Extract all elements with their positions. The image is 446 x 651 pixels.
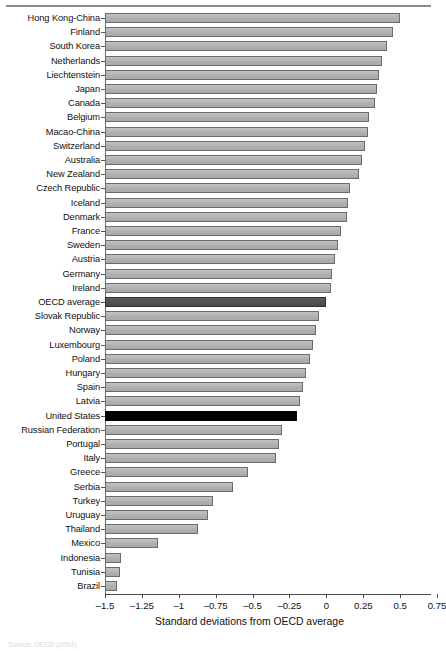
category-label: Canada	[0, 98, 100, 108]
category-label: Brazil	[0, 581, 100, 591]
bar	[105, 56, 382, 66]
bar-row	[105, 112, 437, 122]
bar-row	[105, 98, 437, 108]
x-tick	[179, 594, 180, 598]
bar	[105, 311, 319, 321]
bar-row	[105, 325, 437, 335]
x-tick-label: –1.25	[130, 600, 154, 612]
category-label: Norway	[0, 325, 100, 335]
bar	[105, 254, 335, 264]
category-label: Tunisia	[0, 567, 100, 577]
bar-row	[105, 368, 437, 378]
bar	[105, 169, 359, 179]
bar	[105, 553, 121, 563]
bar-rows	[105, 13, 437, 595]
bar-row	[105, 169, 437, 179]
bar-row	[105, 411, 437, 421]
category-label: Turkey	[0, 496, 100, 506]
bar	[105, 524, 198, 534]
bar	[105, 240, 338, 250]
bar	[105, 198, 348, 208]
plot-area	[105, 13, 437, 595]
bar-row	[105, 127, 437, 137]
bar	[105, 226, 341, 236]
bar	[105, 354, 310, 364]
category-label: Serbia	[0, 482, 100, 492]
bar	[105, 581, 117, 591]
bar	[105, 368, 306, 378]
bar-row	[105, 496, 437, 506]
x-tick	[326, 594, 327, 598]
category-label: Portugal	[0, 439, 100, 449]
category-label: Latvia	[0, 396, 100, 406]
bar	[105, 482, 233, 492]
category-label: Luxembourg	[0, 340, 100, 350]
bar-row	[105, 13, 437, 23]
x-tick-label: –0.25	[277, 600, 301, 612]
x-tick	[105, 594, 106, 598]
category-label: Finland	[0, 27, 100, 37]
bar	[105, 425, 282, 435]
bar-row	[105, 70, 437, 80]
bar-row	[105, 467, 437, 477]
bar	[105, 411, 297, 421]
x-tick	[400, 594, 401, 598]
bar-row	[105, 269, 437, 279]
bar-row	[105, 254, 437, 264]
category-label: Sweden	[0, 240, 100, 250]
bar	[105, 183, 350, 193]
bar-row	[105, 183, 437, 193]
bar	[105, 27, 393, 37]
bar-row	[105, 84, 437, 94]
bar-row	[105, 453, 437, 463]
bar	[105, 127, 368, 137]
category-label: Austria	[0, 254, 100, 264]
bar-row	[105, 354, 437, 364]
category-label: Belgium	[0, 112, 100, 122]
bar-row	[105, 524, 437, 534]
bar	[105, 84, 377, 94]
bar-row	[105, 382, 437, 392]
category-label: United States	[0, 411, 100, 421]
category-label: Iceland	[0, 198, 100, 208]
bar	[105, 41, 387, 51]
category-label: Greece	[0, 467, 100, 477]
category-label: Liechtenstein	[0, 70, 100, 80]
bar	[105, 141, 365, 151]
bar-row	[105, 482, 437, 492]
x-tick-label: 0	[324, 600, 329, 612]
bar-row	[105, 56, 437, 66]
category-label: Uruguay	[0, 510, 100, 520]
bar-row	[105, 538, 437, 548]
category-label: Japan	[0, 84, 100, 94]
bar-row	[105, 226, 437, 236]
category-label: OECD average	[0, 297, 100, 307]
category-label: Slovak Republic	[0, 311, 100, 321]
bar-row	[105, 510, 437, 520]
category-label: Hong Kong-China	[0, 13, 100, 23]
category-label: Ireland	[0, 283, 100, 293]
x-tick-label: 0.5	[393, 600, 406, 612]
category-label: Denmark	[0, 212, 100, 222]
bar-row	[105, 212, 437, 222]
x-tick-label: –1	[173, 600, 184, 612]
x-tick	[253, 594, 254, 598]
category-label: Italy	[0, 453, 100, 463]
bar	[105, 297, 326, 307]
category-label: Indonesia	[0, 553, 100, 563]
x-tick	[289, 594, 290, 598]
bar-row	[105, 27, 437, 37]
category-label: Macao-China	[0, 127, 100, 137]
bar-row	[105, 297, 437, 307]
bar-row	[105, 581, 437, 591]
x-tick-label: 0.75	[428, 600, 446, 612]
bar	[105, 382, 303, 392]
category-label: Australia	[0, 155, 100, 165]
x-tick	[216, 594, 217, 598]
bar	[105, 453, 276, 463]
bar	[105, 340, 313, 350]
category-label: Spain	[0, 382, 100, 392]
bar	[105, 496, 213, 506]
bar	[105, 70, 379, 80]
